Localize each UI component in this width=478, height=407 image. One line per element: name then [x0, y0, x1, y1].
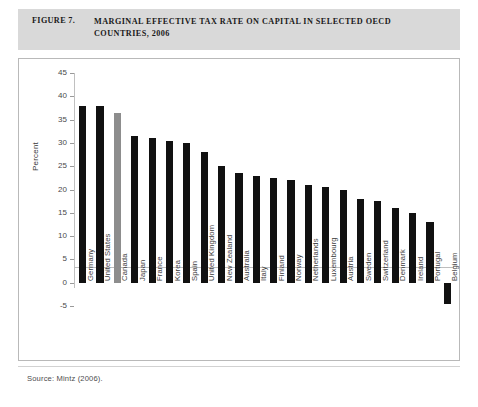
x-tick-label: Austria: [346, 256, 355, 281]
bar-slot[interactable]: [357, 73, 364, 306]
source-divider: [18, 366, 460, 367]
y-tick-label: 15: [41, 209, 67, 217]
figure-header-band: FIGURE 7. MARGINAL EFFECTIVE TAX RATE ON…: [18, 9, 460, 50]
x-tick-label: Switzerland: [381, 240, 390, 281]
y-tick-label: 35: [41, 116, 67, 124]
y-tick-label: 40: [41, 92, 67, 100]
y-axis-title: Percent: [31, 142, 40, 171]
figure-title: MARGINAL EFFECTIVE TAX RATE ON CAPITAL I…: [94, 16, 424, 39]
x-tick-label: Ireland: [416, 257, 425, 281]
x-tick-label: Denmark: [398, 249, 407, 281]
x-tick-label: Finland: [277, 255, 286, 281]
y-tick-label: -5: [41, 302, 67, 310]
source-note: Source: Mintz (2006).: [27, 374, 103, 383]
bar[interactable]: [357, 199, 364, 283]
x-tick-label: Germany: [86, 249, 95, 281]
bar-slot[interactable]: [166, 73, 173, 306]
x-tick-label: United Kingdom: [207, 225, 216, 281]
x-tick-label: Australia: [242, 250, 251, 281]
chart-frame: Percent 454035302520151050-5 GermanyUnit…: [18, 58, 460, 361]
x-tick-label: Sweden: [364, 253, 373, 281]
x-tick-label: Netherlands: [311, 238, 320, 281]
x-tick-label: France: [155, 256, 164, 281]
figure-number: FIGURE 7.: [32, 16, 94, 25]
bar[interactable]: [444, 283, 451, 304]
y-tick-label: 0: [41, 279, 67, 287]
bar[interactable]: [166, 141, 173, 283]
x-tick-label: Italy: [259, 266, 268, 281]
plot-area: Percent 454035302520151050-5 GermanyUnit…: [19, 59, 461, 362]
y-tick-label: 5: [41, 255, 67, 263]
x-tick-label: Belgium: [450, 253, 459, 282]
x-tick-label: Canada: [120, 253, 129, 281]
y-tick-label: 25: [41, 162, 67, 170]
y-tick-mark: [70, 306, 74, 307]
y-tick-label: 10: [41, 232, 67, 240]
x-tick-label: New Zealand: [225, 235, 234, 281]
x-tick-label: Luxembourg: [329, 237, 338, 281]
y-tick-label: 20: [41, 186, 67, 194]
x-tick-label: United States: [103, 233, 112, 281]
x-tick-label: Japan: [138, 260, 147, 281]
x-tick-label: Spain: [190, 261, 199, 281]
x-tick-label: Korea: [173, 260, 182, 281]
x-tick-label: Portugal: [433, 252, 442, 281]
x-tick-label: Norway: [294, 254, 303, 281]
y-tick-label: 30: [41, 139, 67, 147]
y-tick-label: 45: [41, 69, 67, 77]
